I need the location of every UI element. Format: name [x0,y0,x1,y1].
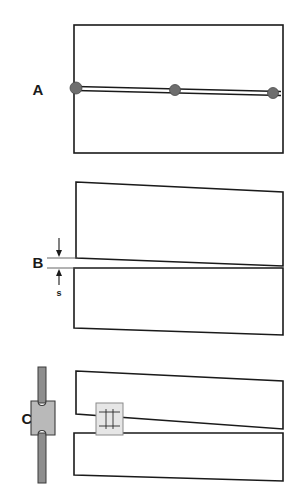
panel-b-dim-arrow-top-head [56,250,62,257]
three-panel-fracture-specimen-diagram: A B s C [0,0,306,496]
panel-a-marker-left [70,82,82,94]
panel-c-group: C [22,367,283,483]
panel-a-marker-middle [170,85,181,96]
panel-a-group: A [33,25,283,153]
panel-b-upper-half [76,182,283,266]
clip-gauge-body [31,401,55,435]
panel-b-gap-dimension-label: s [56,288,61,298]
panel-b-letter: B [33,254,44,271]
panel-c-lower-half [74,433,283,481]
clip-gauge-lower-arm [38,433,46,483]
clip-gauge-upper-arm [38,367,46,403]
panel-b-lower-half [74,268,283,335]
panel-a-letter: A [33,81,44,98]
mounted-gauge-block [96,403,123,435]
panel-b-group: B s [33,182,283,335]
mounted-clip-gauge [96,403,123,435]
panel-a-marker-right [268,88,279,99]
panel-b-dim-arrow-bottom-head [56,269,62,276]
figure-container: A B s C [0,0,306,496]
clip-gauge-standalone [31,367,55,483]
